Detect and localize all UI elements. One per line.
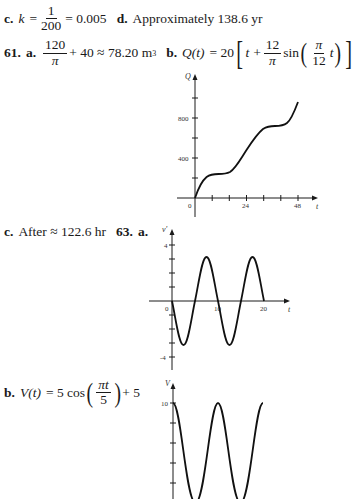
right-bracket: ] — [345, 36, 352, 70]
Q-curve — [195, 102, 298, 198]
y-axis-arrow-icon — [171, 383, 176, 389]
x-axis-arrow-icon — [284, 299, 290, 304]
graph-v-prime: v' t 0 10 20 4 -4 — [149, 225, 291, 370]
y-axis-arrow-icon — [193, 74, 198, 80]
y-axis-label: v' — [162, 225, 168, 234]
tick-label-48: 48 — [294, 202, 302, 210]
tick-label-800: 800 — [178, 115, 189, 123]
graph-V-of-t: V 10 — [161, 379, 263, 499]
y-axis-arrow-icon — [170, 229, 175, 235]
inner-t: t — [330, 45, 334, 61]
tick-label-20: 20 — [260, 305, 268, 313]
right-paren: ) — [335, 39, 342, 67]
tick-label-neg4: -4 — [160, 354, 166, 362]
V-curve — [173, 403, 263, 499]
graph-Q-of-t: Q t 0 24 48 400 800 — [177, 72, 319, 217]
tick-label-10: 10 — [161, 400, 169, 408]
x-axis-arrow-icon — [312, 196, 318, 201]
tick-label-4: 4 — [164, 242, 168, 250]
tick-label-400: 400 — [178, 155, 189, 163]
tick-label-0: 0 — [188, 202, 192, 210]
x-axis-label: t — [316, 202, 319, 211]
y-axis-label: V — [165, 379, 171, 388]
x-axis-label: t — [288, 305, 291, 314]
tick-label-24: 24 — [242, 202, 250, 210]
tick-label-0: 0 — [165, 305, 169, 313]
y-axis-label: Q — [185, 72, 191, 81]
